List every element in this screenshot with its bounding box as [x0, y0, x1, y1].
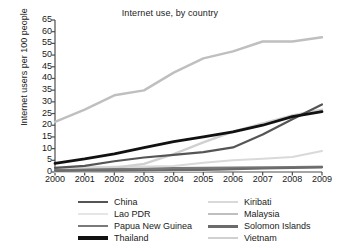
legend-item[interactable]: Papua New Guinea	[78, 220, 192, 232]
legend-label: Solomon Islands	[244, 220, 311, 232]
legend-label: Vietnam	[244, 232, 277, 244]
legend-label: Kiribati	[244, 196, 272, 208]
series-line	[55, 37, 322, 122]
chart-container: Internet use, by country Internet users …	[0, 0, 340, 251]
legend-swatch	[78, 236, 108, 239]
legend-label: China	[114, 196, 138, 208]
legend-swatch	[208, 225, 238, 228]
legend-item[interactable]: Lao PDR	[78, 208, 151, 220]
series-line	[55, 112, 322, 164]
legend-label: Thailand	[114, 232, 149, 244]
legend-label: Malaysia	[244, 208, 280, 220]
legend-item[interactable]: Solomon Islands	[208, 220, 311, 232]
legend-item[interactable]: Thailand	[78, 232, 149, 244]
legend-item[interactable]: Kiribati	[208, 196, 272, 208]
legend-swatch	[78, 213, 108, 215]
chart-legend: ChinaLao PDRPapua New GuineaThailandKiri…	[0, 196, 340, 248]
legend-label: Lao PDR	[114, 208, 151, 220]
legend-item[interactable]: Vietnam	[208, 232, 277, 244]
legend-item[interactable]: China	[78, 196, 138, 208]
legend-swatch	[78, 201, 108, 203]
legend-swatch	[208, 213, 238, 216]
legend-item[interactable]: Malaysia	[208, 208, 280, 220]
legend-swatch	[78, 225, 108, 228]
legend-swatch	[208, 237, 238, 239]
legend-swatch	[208, 201, 238, 203]
legend-label: Papua New Guinea	[114, 220, 192, 232]
